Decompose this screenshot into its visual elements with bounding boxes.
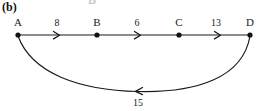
edge-weight-d-to-a: 15 (133, 98, 143, 108)
node-dot-c (176, 32, 181, 37)
edge-arc-d-to-a (18, 36, 250, 92)
node-label-c: C (175, 17, 182, 28)
node-dot-a (15, 32, 20, 37)
graph-canvas (0, 0, 260, 111)
node-label-d: D (246, 17, 254, 28)
figure-root: B (b) A B C D 8 6 13 15 (0, 0, 260, 111)
edge-weight-c-to-d: 13 (211, 18, 221, 28)
edge-weight-b-to-c: 6 (135, 18, 140, 28)
edge-weight-a-to-b: 8 (55, 18, 60, 28)
node-label-b: B (93, 17, 100, 28)
node-label-a: A (14, 17, 22, 28)
node-dot-d (247, 32, 252, 37)
node-dot-b (94, 32, 99, 37)
